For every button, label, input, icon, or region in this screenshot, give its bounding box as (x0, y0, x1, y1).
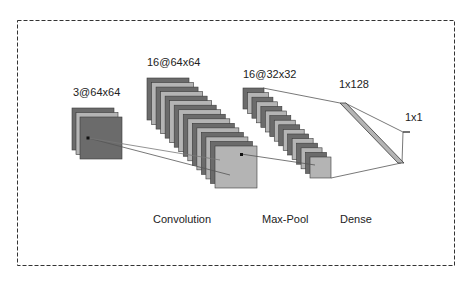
output-shape-label: 1x1 (405, 111, 423, 123)
conv-kernel-dot (240, 153, 243, 156)
dense-shape-label: 1x128 (339, 78, 369, 90)
cnn-diagram: 3@64x64 16@64x64 16@32x32 1x128 1x1 Conv… (0, 0, 473, 282)
dense-layer-bar (340, 103, 404, 163)
pool-to-dense-top-line (263, 88, 340, 103)
conv-type-label: Convolution (153, 213, 211, 225)
conv-stack (147, 78, 257, 188)
dense-to-output-bottom-line (402, 132, 403, 163)
input-feature-map (80, 117, 122, 159)
input-stack (72, 108, 122, 159)
conv-shape-label: 16@64x64 (147, 56, 200, 68)
input-kernel-dot (87, 137, 90, 140)
pool-type-label: Max-Pool (262, 213, 308, 225)
dense-type-label: Dense (340, 213, 372, 225)
input-shape-label: 3@64x64 (73, 86, 120, 98)
pool-feature-map (310, 157, 331, 178)
conv-feature-map (215, 146, 257, 188)
pool-to-dense-bottom-line (331, 163, 401, 178)
pool-shape-label: 16@32x32 (243, 68, 296, 80)
